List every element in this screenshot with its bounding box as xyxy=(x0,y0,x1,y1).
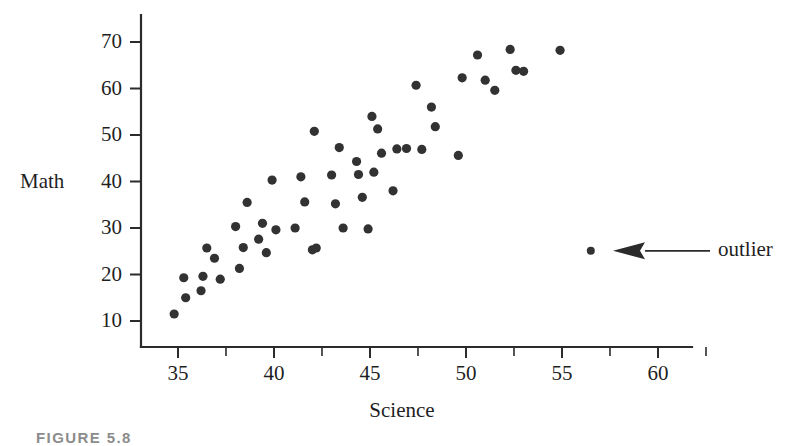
x-tick-label: 60 xyxy=(628,363,688,384)
data-point xyxy=(296,172,305,181)
data-point xyxy=(490,86,499,95)
data-point xyxy=(555,46,564,55)
data-point xyxy=(354,170,363,179)
data-point xyxy=(291,223,300,232)
data-point xyxy=(216,275,225,284)
data-point xyxy=(388,186,397,195)
data-point xyxy=(392,144,401,153)
outlier-annotation-label: outlier xyxy=(718,239,773,260)
data-point xyxy=(352,157,361,166)
data-point xyxy=(235,264,244,273)
data-point xyxy=(331,199,340,208)
data-point xyxy=(196,286,205,295)
data-point xyxy=(258,219,267,228)
data-point xyxy=(231,222,240,231)
data-point xyxy=(179,273,188,282)
x-tick-label: 50 xyxy=(436,363,496,384)
data-point xyxy=(506,45,515,54)
data-point xyxy=(417,145,426,154)
data-point xyxy=(335,143,344,152)
data-point xyxy=(312,243,321,252)
y-tick-label: 40 xyxy=(66,171,122,192)
x-axis-title: Science xyxy=(0,400,804,421)
data-point xyxy=(202,243,211,252)
data-point xyxy=(181,293,190,302)
x-tick-label: 45 xyxy=(340,363,400,384)
outlier-data-point xyxy=(587,247,595,255)
data-point xyxy=(358,193,367,202)
x-tick-label: 35 xyxy=(148,363,208,384)
data-point xyxy=(310,127,319,136)
data-points xyxy=(170,45,565,319)
data-point xyxy=(327,170,336,179)
y-tick-label: 60 xyxy=(66,78,122,99)
y-tick-label: 20 xyxy=(66,264,122,285)
data-point xyxy=(243,198,252,207)
data-point xyxy=(377,149,386,158)
x-tick-label: 40 xyxy=(244,363,304,384)
outlier-marker xyxy=(587,247,595,255)
data-point xyxy=(262,248,271,257)
outlier-arrow xyxy=(613,242,710,259)
data-point xyxy=(454,151,463,160)
data-point xyxy=(267,176,276,185)
y-axis-title: Math xyxy=(20,171,64,192)
data-point xyxy=(300,197,309,206)
data-point xyxy=(369,168,378,177)
data-point xyxy=(373,124,382,133)
data-point xyxy=(427,103,436,112)
data-point xyxy=(519,67,528,76)
data-point xyxy=(170,309,179,318)
data-point xyxy=(271,225,280,234)
data-point xyxy=(367,112,376,121)
data-point xyxy=(481,76,490,85)
data-point xyxy=(431,122,440,131)
data-point xyxy=(198,272,207,281)
data-point xyxy=(473,50,482,59)
data-point xyxy=(339,223,348,232)
data-point xyxy=(210,254,219,263)
arrow-head xyxy=(613,242,645,259)
data-point xyxy=(254,235,263,244)
figure-caption: FIGURE 5.8 xyxy=(36,429,132,446)
y-tick-label: 70 xyxy=(66,31,122,52)
y-tick-label: 50 xyxy=(66,124,122,145)
data-point xyxy=(411,81,420,90)
data-point xyxy=(402,144,411,153)
data-point xyxy=(458,73,467,82)
data-point xyxy=(363,224,372,233)
axes xyxy=(141,15,692,347)
y-tick-label: 10 xyxy=(66,310,122,331)
x-tick-label: 55 xyxy=(532,363,592,384)
y-tick-label: 30 xyxy=(66,217,122,238)
data-point xyxy=(239,243,248,252)
